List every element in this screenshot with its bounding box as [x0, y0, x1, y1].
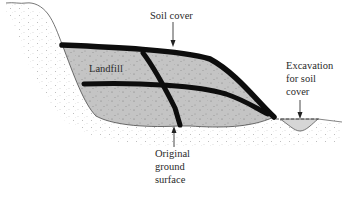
- excavation-label-line1: Excavation: [286, 60, 334, 71]
- excavation-label-line3: cover: [286, 86, 310, 97]
- soil-cover-label: Soil cover: [150, 10, 193, 21]
- landfill-cross-section-diagram: Soil cover Landfill Excavation for soil …: [0, 0, 352, 198]
- excavation-label-line2: for soil: [286, 73, 316, 84]
- original-ground-label-line3: surface: [155, 174, 186, 185]
- original-ground-label-line1: Original: [155, 148, 190, 159]
- original-ground-label-line2: ground: [155, 161, 185, 172]
- arrow-excavation: [298, 100, 303, 119]
- arrow-soil-cover: [171, 22, 176, 47]
- landfill-label: Landfill: [89, 63, 123, 74]
